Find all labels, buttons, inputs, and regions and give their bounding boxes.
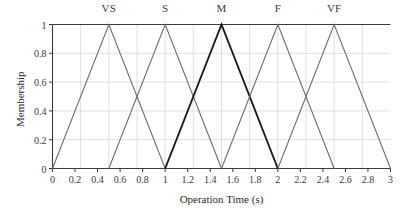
y-axis-tick-label: 0 bbox=[15, 163, 47, 174]
series-label-m: M bbox=[217, 2, 227, 14]
y-axis-tick-label: 0.8 bbox=[15, 48, 47, 59]
x-axis-tick-label: 2.8 bbox=[362, 174, 375, 185]
x-axis-tick-label: 0.8 bbox=[136, 174, 149, 185]
x-axis-tick-label: 0.6 bbox=[114, 174, 127, 185]
x-axis-tick-label: 2.6 bbox=[339, 174, 352, 185]
y-axis-title: Membership bbox=[14, 71, 26, 127]
series-label-s: S bbox=[162, 2, 168, 14]
gridlines bbox=[53, 25, 391, 169]
series-label-f: F bbox=[275, 2, 281, 14]
x-axis-tick-label: 1.8 bbox=[249, 174, 262, 185]
plot-canvas bbox=[0, 0, 410, 220]
x-axis-tick-label: 3 bbox=[388, 174, 393, 185]
x-axis-tick-label: 0 bbox=[50, 174, 55, 185]
x-axis-title: Operation Time (s) bbox=[180, 193, 264, 205]
y-axis-tick-label: 0.2 bbox=[15, 134, 47, 145]
series-label-vf: VF bbox=[327, 2, 341, 14]
series-label-vs: VS bbox=[102, 2, 116, 14]
x-axis-tick-label: 2.4 bbox=[317, 174, 330, 185]
x-axis-tick-label: 1.6 bbox=[227, 174, 240, 185]
x-axis-tick-label: 0.2 bbox=[69, 174, 82, 185]
x-axis-tick-label: 0.4 bbox=[91, 174, 104, 185]
y-axis-tick-label: 1 bbox=[15, 19, 47, 30]
x-axis-tick-label: 2 bbox=[275, 174, 280, 185]
x-axis-tick-label: 1.4 bbox=[204, 174, 217, 185]
x-axis-tick-label: 2.2 bbox=[294, 174, 307, 185]
membership-function-chart: VSSMFVF00.20.40.60.8100.20.40.60.811.21.… bbox=[0, 0, 410, 220]
x-axis-tick-label: 1.2 bbox=[181, 174, 194, 185]
x-axis-tick-label: 1 bbox=[163, 174, 168, 185]
